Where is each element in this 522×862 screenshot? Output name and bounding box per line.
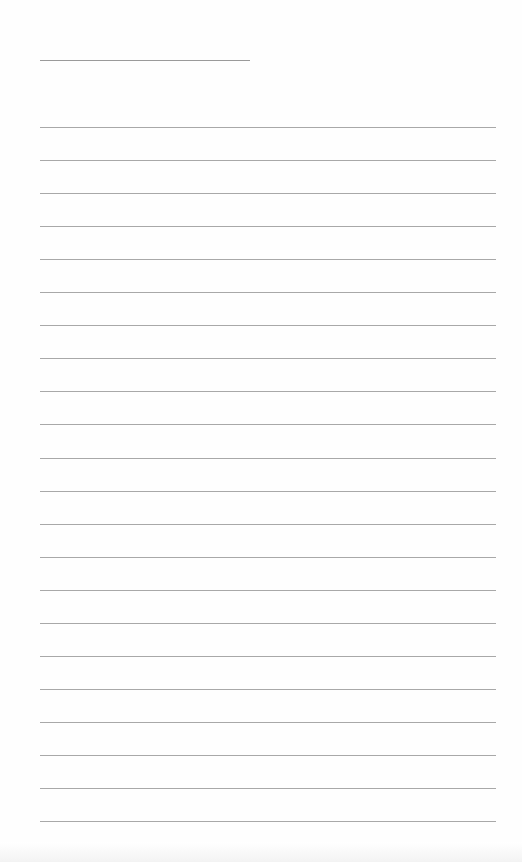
ruled-line (40, 590, 496, 591)
ruled-line (40, 226, 496, 227)
ruled-line (40, 788, 496, 789)
ruled-line (40, 689, 496, 690)
ruled-line (40, 623, 496, 624)
ruled-line (40, 358, 496, 359)
ruled-line (40, 259, 496, 260)
ruled-line (40, 524, 496, 525)
ruled-line (40, 656, 496, 657)
ruled-line (40, 557, 496, 558)
ruled-line (40, 193, 496, 194)
ruled-line (40, 458, 496, 459)
ruled-line (40, 424, 496, 425)
ruled-line (40, 722, 496, 723)
ruled-line (40, 292, 496, 293)
ruled-line (40, 821, 496, 822)
title-line (40, 60, 250, 61)
ruled-line (40, 491, 496, 492)
ruled-line (40, 325, 496, 326)
ruled-line (40, 127, 496, 128)
page-bottom-shadow (0, 842, 522, 862)
lined-paper-page (0, 0, 522, 862)
ruled-line (40, 160, 496, 161)
ruled-line (40, 755, 496, 756)
ruled-line (40, 391, 496, 392)
